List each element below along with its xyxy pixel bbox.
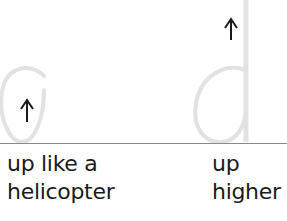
caption-right-line1: up: [212, 150, 281, 178]
letter-guides: [0, 0, 287, 143]
up-arrow-icon: [21, 100, 33, 122]
baseline-rule: [0, 143, 287, 144]
letter-d-guide-icon: [195, 0, 246, 142]
up-arrow-icon: [225, 19, 237, 40]
caption-left-line1: up like a: [7, 150, 114, 178]
caption-left: up like a helicopter: [7, 150, 114, 206]
letter-formation-figure: up like a helicopter up higher: [0, 0, 287, 221]
caption-right: up higher: [212, 150, 281, 206]
caption-left-line2: helicopter: [7, 178, 114, 206]
caption-right-line2: higher: [212, 178, 281, 206]
